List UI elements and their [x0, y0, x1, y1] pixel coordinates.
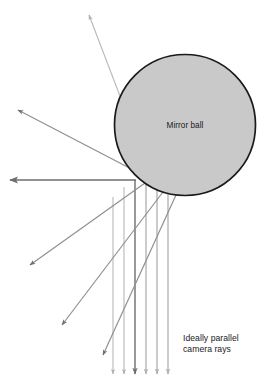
reflected-ray-down-shallow — [30, 178, 152, 265]
reflected-ray-down-steep — [103, 195, 176, 355]
mirror-ball-label: Mirror ball — [167, 121, 204, 130]
ray-diagram-canvas: Mirror ball Ideally parallel camera rays — [0, 0, 272, 382]
camera-rays-caption-line2: camera rays — [183, 344, 231, 354]
ray-diagram-figure: Mirror ball Ideally parallel camera rays — [0, 0, 272, 382]
camera-rays-caption-line1: Ideally parallel — [183, 333, 239, 343]
reflected-ray-down-mid — [62, 188, 166, 325]
